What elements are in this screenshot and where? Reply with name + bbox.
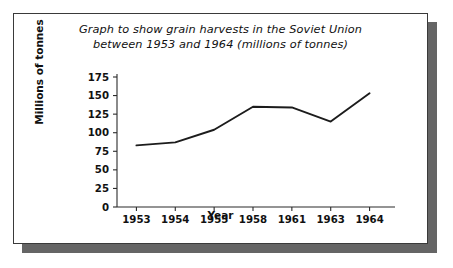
y-tick-label: 50 [95, 164, 109, 175]
y-axis-ticks: 0255075100125150175 [88, 72, 117, 213]
y-tick-label: 125 [88, 109, 109, 120]
chart-frame: Graph to show grain harvests in the Sovi… [13, 13, 428, 244]
scanned-page: Graph to show grain harvests in the Sovi… [0, 0, 453, 268]
y-tick-label: 100 [88, 127, 109, 138]
y-tick-label: 175 [88, 72, 109, 83]
x-tick-label: 1963 [317, 214, 345, 225]
x-tick-label: 1958 [239, 214, 267, 225]
plot-area: Millions of tonnes Year 0255075100125150… [14, 14, 427, 243]
data-series-line [136, 93, 369, 145]
x-tick-label: 1961 [278, 214, 306, 225]
x-tick-label: 1953 [122, 214, 150, 225]
y-tick-label: 150 [88, 90, 109, 101]
line-chart-svg: 0255075100125150175 19531954195519581961… [14, 14, 429, 245]
y-tick-label: 25 [95, 183, 109, 194]
x-tick-label: 1955 [200, 214, 228, 225]
y-tick-label: 75 [95, 146, 109, 157]
y-tick-label: 0 [102, 202, 109, 213]
x-tick-label: 1964 [355, 214, 383, 225]
x-tick-label: 1954 [161, 214, 189, 225]
x-axis-ticks: 1953195419551958196119631964 [122, 207, 384, 225]
